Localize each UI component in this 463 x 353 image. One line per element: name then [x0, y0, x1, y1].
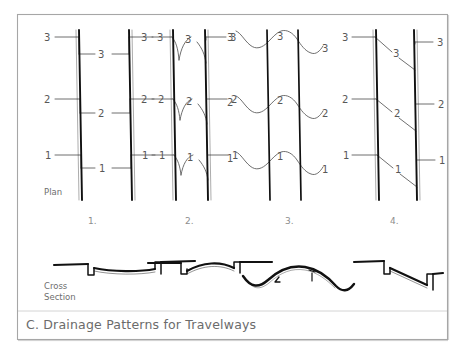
- panel-4-label-1-right: 1: [439, 155, 445, 166]
- panel-1-label-1-center: 1: [99, 163, 105, 174]
- cs1-left-shoulder: [54, 264, 88, 265]
- drainage-patterns-figure: 3 3 3 2 2 2 1 1 1: [0, 0, 463, 353]
- panel-number-4: 4.: [390, 216, 399, 226]
- panel-3-label-3-right-outer: 3: [322, 43, 328, 54]
- panel-2-label-2-center: 2: [186, 96, 192, 107]
- figure-title: C. Drainage Patterns for Travelways: [26, 317, 256, 332]
- panel-number-2: 2.: [185, 216, 194, 226]
- panel-1-label-2-center: 2: [98, 108, 104, 119]
- panel-4-label-2-center: 2: [394, 108, 400, 119]
- panel-1-label-1-left: 1: [45, 150, 51, 161]
- panel-4-label-3-center: 3: [393, 48, 399, 59]
- panel-4-label-3-right: 3: [437, 37, 443, 48]
- cs4-right-shoulder: [433, 273, 443, 274]
- panel-3-label-3-left-outer: 3: [227, 32, 233, 43]
- panel-2-label-2-left: 2: [141, 94, 147, 105]
- panel-3-label-1-center: 1: [277, 151, 283, 162]
- panel-3-label-2-right-outer: 2: [322, 108, 328, 119]
- panel-3-label-2-center: 2: [277, 95, 283, 106]
- panel-1-label-2-right: 2: [158, 94, 164, 105]
- panel-4-label-2-left: 2: [342, 94, 348, 105]
- panel-2-label-1-center: 1: [187, 152, 193, 163]
- panel-3-label-1-left-outer: 1: [227, 153, 233, 164]
- panel-1-label-2-left: 2: [44, 94, 50, 105]
- cross-section-label-line2: Section: [44, 292, 76, 302]
- panel-4-label-3-left: 3: [342, 32, 348, 43]
- panel-3-label-1-right-outer: 1: [322, 164, 328, 175]
- figure-svg: 3 3 3 2 2 2 1 1 1: [0, 0, 463, 353]
- panel-4-label-2-right: 2: [438, 99, 444, 110]
- panel-2-label-1-left: 1: [142, 150, 148, 161]
- cross-section-label-line1: Cross: [44, 281, 68, 291]
- panel-1-label-3-right: 3: [157, 32, 163, 43]
- cs4-left-shoulder: [354, 261, 384, 262]
- panel-3-label-3-center: 3: [277, 31, 283, 42]
- panel-3-label-2-left-outer: 2: [227, 97, 233, 108]
- panel-number-3: 3.: [285, 216, 294, 226]
- panel-1-label-1-right: 1: [159, 150, 165, 161]
- panel-1-label-3-center: 3: [98, 49, 104, 60]
- panel-1-label-3-left: 3: [44, 32, 50, 43]
- panel-number-1: 1.: [88, 216, 97, 226]
- plan-row-label: Plan: [44, 187, 62, 197]
- panel-4-label-1-left: 1: [343, 150, 349, 161]
- panel-4-label-1-center: 1: [395, 164, 401, 175]
- cs1-right-shoulder: [161, 261, 195, 262]
- panel-2-label-3-center: 3: [185, 34, 191, 45]
- panel-2-label-3-left: 3: [141, 32, 147, 43]
